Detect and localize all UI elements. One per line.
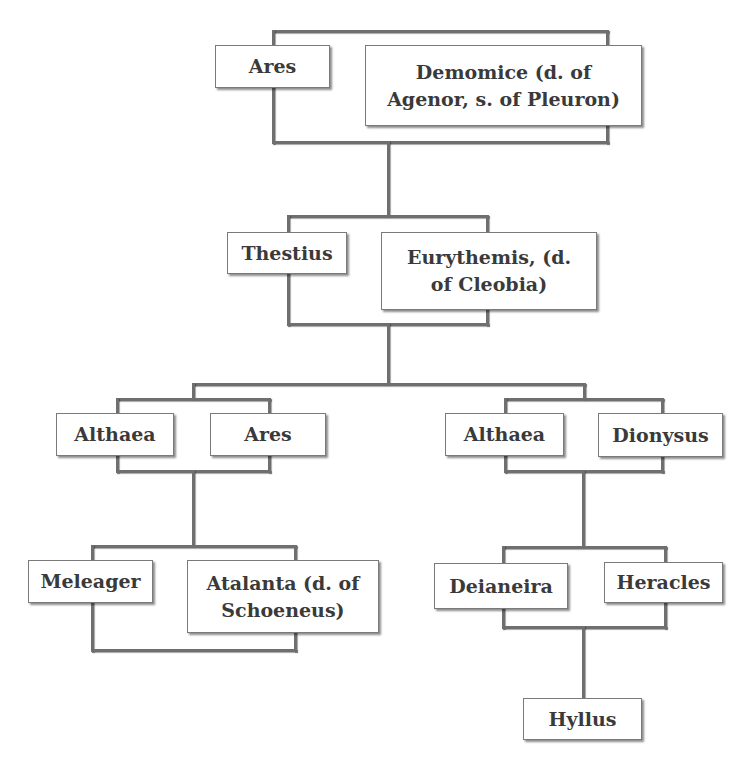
person-althaea: Althaea xyxy=(445,413,564,456)
person-demomice: Demomice (d. of Agenor, s. of Pleuron) xyxy=(365,45,642,126)
descent-line xyxy=(582,470,585,548)
person-deianeira: Deianeira xyxy=(434,563,568,609)
person-atalanta: Atalanta (d. of Schoeneus) xyxy=(187,560,379,633)
person-eurythemis: Eurythemis, (d. of Cleobia) xyxy=(381,232,597,310)
person-dionysus: Dionysus xyxy=(598,413,723,457)
descent-line xyxy=(192,470,195,547)
family-tree-diagram: Ares Demomice (d. of Agenor, s. of Pleur… xyxy=(0,0,753,776)
couple-bracket-top xyxy=(502,546,667,549)
person-hyllus: Hyllus xyxy=(523,698,642,740)
couple-bracket-top xyxy=(287,215,489,218)
couple-bracket-bottom xyxy=(272,141,609,144)
person-althaea: Althaea xyxy=(56,413,174,456)
couple-bracket-top xyxy=(91,545,297,548)
descent-line xyxy=(582,626,585,698)
person-thestius: Thestius xyxy=(227,232,347,274)
person-meleager: Meleager xyxy=(28,560,153,603)
couple-bracket-top xyxy=(116,398,271,401)
couple-bracket-top xyxy=(504,398,664,401)
descent-line xyxy=(387,141,390,217)
sibling-connector xyxy=(192,383,586,386)
descent-line xyxy=(387,323,390,385)
person-heracles: Heracles xyxy=(604,562,723,603)
couple-bracket-top xyxy=(272,30,609,33)
couple-bracket-bottom xyxy=(91,649,297,652)
person-ares: Ares xyxy=(210,413,326,456)
person-ares: Ares xyxy=(215,45,330,88)
